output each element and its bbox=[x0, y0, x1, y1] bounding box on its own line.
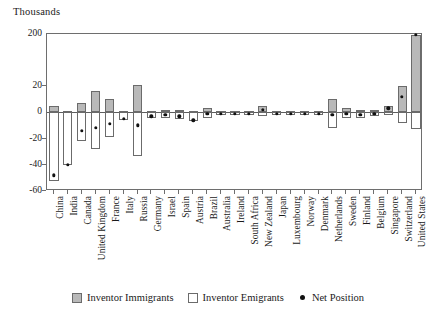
bar-group[interactable] bbox=[75, 34, 89, 189]
x-axis-category-label: Sweden bbox=[349, 196, 358, 226]
x-tick-mark bbox=[137, 190, 138, 194]
x-axis-category-label: Austria bbox=[196, 196, 205, 224]
x-tick-mark bbox=[290, 190, 291, 194]
plot-area bbox=[46, 33, 422, 190]
bar-group[interactable] bbox=[186, 34, 200, 189]
x-axis-category-label: India bbox=[70, 196, 79, 216]
chart-figure: Thousands 200200-20-40-60 ChinaIndiaCana… bbox=[0, 0, 436, 320]
y-axis-unit-caption: Thousands bbox=[13, 6, 60, 17]
bar-group[interactable] bbox=[339, 34, 353, 189]
bar-inventor-emigrants[interactable] bbox=[63, 112, 72, 165]
legend-swatch-inventor-emigrants bbox=[188, 293, 198, 303]
x-tick-mark bbox=[401, 190, 402, 194]
bar-group[interactable] bbox=[312, 34, 326, 189]
bar-inventor-emigrants[interactable] bbox=[77, 112, 86, 141]
x-tick-mark bbox=[164, 190, 165, 194]
bar-group[interactable] bbox=[381, 34, 395, 189]
legend-label: Net Position bbox=[312, 292, 364, 303]
x-tick-mark bbox=[67, 190, 68, 194]
bar-group[interactable] bbox=[172, 34, 186, 189]
bar-group[interactable] bbox=[353, 34, 367, 189]
x-axis-category-label: Japan bbox=[279, 196, 288, 218]
bar-group[interactable] bbox=[158, 34, 172, 189]
bar-group[interactable] bbox=[103, 34, 117, 189]
bar-inventor-emigrants[interactable] bbox=[133, 112, 142, 155]
bar-group[interactable] bbox=[214, 34, 228, 189]
bar-group[interactable] bbox=[47, 34, 61, 189]
x-axis-category-label: Australia bbox=[223, 196, 232, 231]
x-axis-category-label: United Kingdom bbox=[98, 196, 107, 260]
x-tick-mark bbox=[81, 190, 82, 194]
x-axis-category-label: Denmark bbox=[321, 196, 330, 231]
bar-inventor-emigrants[interactable] bbox=[49, 112, 58, 180]
bar-inventor-immigrants[interactable] bbox=[411, 35, 420, 112]
x-axis-category-label: Germany bbox=[154, 196, 163, 231]
x-tick-mark bbox=[95, 190, 96, 194]
bar-group[interactable] bbox=[242, 34, 256, 189]
x-tick-mark bbox=[276, 190, 277, 194]
x-tick-mark bbox=[262, 190, 263, 194]
bar-inventor-emigrants[interactable] bbox=[91, 112, 100, 149]
bar-group[interactable] bbox=[200, 34, 214, 189]
bar-inventor-emigrants[interactable] bbox=[398, 112, 407, 123]
x-axis-category-label: Switzerland bbox=[405, 196, 414, 242]
y-tick-label: 200 bbox=[0, 28, 42, 38]
bar-group[interactable] bbox=[89, 34, 103, 189]
bar-group[interactable] bbox=[326, 34, 340, 189]
x-tick-mark bbox=[178, 190, 179, 194]
legend-item-inventor-immigrants[interactable]: Inventor Immigrants bbox=[72, 292, 174, 303]
bar-group[interactable] bbox=[61, 34, 75, 189]
x-tick-mark bbox=[123, 190, 124, 194]
x-axis-category-label: Italy bbox=[126, 196, 135, 214]
x-tick-mark bbox=[234, 190, 235, 194]
x-tick-mark bbox=[109, 190, 110, 194]
bar-group[interactable] bbox=[117, 34, 131, 189]
x-tick-mark bbox=[359, 190, 360, 194]
bar-group[interactable] bbox=[144, 34, 158, 189]
bar-inventor-immigrants[interactable] bbox=[77, 103, 86, 112]
bar-group[interactable] bbox=[256, 34, 270, 189]
bar-group[interactable] bbox=[395, 34, 409, 189]
legend-item-net-position[interactable]: Net Position bbox=[298, 292, 364, 303]
x-axis-category-label: Brazil bbox=[210, 196, 219, 219]
bar-group[interactable] bbox=[298, 34, 312, 189]
x-tick-mark bbox=[345, 190, 346, 194]
bar-group[interactable] bbox=[270, 34, 284, 189]
bar-group[interactable] bbox=[284, 34, 298, 189]
chart-legend: Inventor ImmigrantsInventor EmigrantsNet… bbox=[0, 292, 436, 303]
bar-inventor-immigrants[interactable] bbox=[133, 85, 142, 112]
x-axis-category-label: Luxembourg bbox=[293, 196, 302, 245]
x-axis-category-label: South Africa bbox=[251, 196, 260, 244]
bar-inventor-immigrants[interactable] bbox=[105, 99, 114, 112]
x-axis-category-label: New Zealand bbox=[265, 196, 274, 247]
x-tick-mark bbox=[331, 190, 332, 194]
bar-group[interactable] bbox=[131, 34, 145, 189]
x-tick-mark bbox=[150, 190, 151, 194]
y-axis: 200200-20-40-60 bbox=[0, 33, 42, 190]
bar-inventor-emigrants[interactable] bbox=[411, 112, 420, 129]
bar-group[interactable] bbox=[409, 34, 423, 189]
x-axis-category-label: Canada bbox=[84, 196, 93, 224]
y-tick-label: -60 bbox=[0, 185, 42, 195]
bar-group[interactable] bbox=[367, 34, 381, 189]
bar-inventor-immigrants[interactable] bbox=[91, 91, 100, 112]
x-axis-category-label: United States bbox=[418, 196, 427, 247]
x-tick-mark bbox=[415, 190, 416, 194]
x-tick-mark bbox=[53, 190, 54, 194]
x-axis-category-label: Russia bbox=[140, 196, 149, 221]
x-axis-ticks bbox=[46, 190, 422, 195]
x-tick-mark bbox=[318, 190, 319, 194]
bar-inventor-emigrants[interactable] bbox=[384, 112, 393, 115]
x-axis-category-label: France bbox=[112, 196, 121, 222]
legend-label: Inventor Immigrants bbox=[87, 292, 174, 303]
x-tick-mark bbox=[192, 190, 193, 194]
bar-inventor-immigrants[interactable] bbox=[328, 99, 337, 112]
legend-swatch-inventor-immigrants bbox=[72, 293, 82, 303]
bar-group[interactable] bbox=[228, 34, 242, 189]
y-tick-label: -40 bbox=[0, 159, 42, 169]
x-axis-category-label: Singapore bbox=[391, 196, 400, 235]
bar-inventor-emigrants[interactable] bbox=[258, 112, 267, 116]
x-axis-category-label: China bbox=[56, 196, 65, 219]
legend-item-inventor-emigrants[interactable]: Inventor Emigrants bbox=[188, 292, 284, 303]
bar-inventor-immigrants[interactable] bbox=[398, 86, 407, 112]
